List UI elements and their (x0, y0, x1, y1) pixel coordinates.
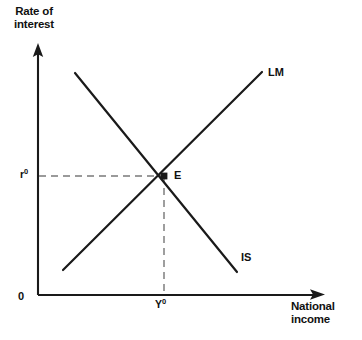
equilibrium-point-label: E (174, 169, 181, 181)
x-axis-title: Nationalincome (291, 300, 335, 326)
y-axis (33, 43, 43, 295)
y-tick-superscript: 0 (24, 167, 28, 176)
x-tick-base: Y (155, 298, 162, 310)
equilibrium-point-marker (161, 173, 168, 180)
is-lm-diagram: Rate ofinterest Nationalincome LM IS E r… (0, 0, 362, 340)
lm-curve-label: LM (268, 66, 284, 78)
x-axis-title-line1: National (291, 300, 335, 312)
y-axis-title: Rate ofinterest (14, 5, 54, 31)
is-curve-label: IS (241, 251, 251, 263)
origin-label: 0 (18, 290, 24, 302)
lm-curve (63, 72, 262, 270)
y-axis-title-line1: Rate of (15, 5, 53, 17)
is-curve (75, 73, 237, 272)
y-axis-tick-label-r0: r0 (20, 169, 28, 181)
y-axis-title-line2: interest (14, 18, 54, 30)
x-axis-title-line2: income (291, 313, 330, 325)
x-tick-superscript: 0 (162, 297, 166, 306)
x-axis (38, 289, 325, 299)
x-axis-tick-label-y0: Y0 (155, 299, 166, 311)
